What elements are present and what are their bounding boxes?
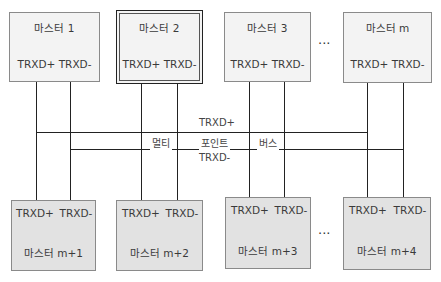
master-m4-pin-minus: TRXD- — [388, 204, 432, 216]
bus-title-word-2: 포인트 — [199, 135, 230, 150]
master-2-name: 마스터 2 — [117, 20, 202, 35]
master-m1-box: TRXD+ TRXD- 마스터 m+1 — [11, 200, 96, 271]
bus-plus-label: TRXD+ — [197, 117, 237, 128]
master-2-pins: TRXD+ TRXD- — [117, 58, 202, 70]
wire-mm-minus — [403, 83, 404, 197]
bus-title-word-1: 멀티 — [150, 135, 172, 150]
master-2-box: 마스터 2 TRXD+ TRXD- — [116, 10, 203, 84]
master-m1-pin-minus: TRXD- — [56, 207, 96, 219]
master-m3-pin-minus: TRXD- — [270, 204, 312, 216]
master-3-pins: TRXD+ TRXD- — [225, 58, 310, 70]
master-1-name: 마스터 1 — [10, 20, 99, 35]
wire-m2-plus — [141, 84, 142, 200]
master-m-pins: TRXD+ TRXD- — [344, 58, 431, 70]
bus-title-word-3: 버스 — [257, 135, 279, 150]
master-m2-name: 마스터 m+2 — [117, 245, 202, 260]
master-m-box: 마스터 m TRXD+ TRXD- — [343, 12, 432, 83]
wire-m1-minus — [70, 82, 71, 200]
master-m2-pin-plus: TRXD+ — [117, 207, 165, 219]
bottom-ellipsis: ··· — [318, 226, 330, 241]
master-3-name: 마스터 3 — [225, 20, 310, 35]
master-m2-box: TRXD+ TRXD- 마스터 m+2 — [116, 200, 203, 271]
master-m4-pin-plus: TRXD+ — [344, 204, 392, 216]
bus-minus-label: TRXD- — [197, 152, 232, 163]
top-ellipsis: ··· — [318, 36, 330, 51]
wire-m1-plus — [36, 82, 37, 200]
master-1-box: 마스터 1 TRXD+ TRXD- — [9, 12, 100, 82]
master-m1-name: 마스터 m+1 — [12, 245, 95, 260]
master-m3-box: TRXD+ TRXD- 마스터 m+3 — [225, 197, 311, 269]
bus-line-minus — [70, 149, 404, 150]
master-m1-pin-plus: TRXD+ — [10, 207, 60, 219]
wire-mm-plus — [367, 83, 368, 197]
wire-m2-minus — [177, 84, 178, 200]
master-3-box: 마스터 3 TRXD+ TRXD- — [224, 12, 311, 82]
master-m4-box: TRXD+ TRXD- 마스터 m+4 — [343, 197, 431, 270]
master-m3-pin-plus: TRXD+ — [226, 204, 274, 216]
master-m2-pin-minus: TRXD- — [161, 207, 203, 219]
bus-line-plus — [36, 132, 368, 133]
master-m4-name: 마스터 m+4 — [344, 243, 430, 258]
wire-m3-plus — [249, 82, 250, 197]
master-m3-name: 마스터 m+3 — [226, 243, 310, 258]
master-1-pins: TRXD+ TRXD- — [10, 58, 99, 70]
master-m-name: 마스터 m — [344, 20, 431, 35]
wire-m3-minus — [284, 82, 285, 197]
